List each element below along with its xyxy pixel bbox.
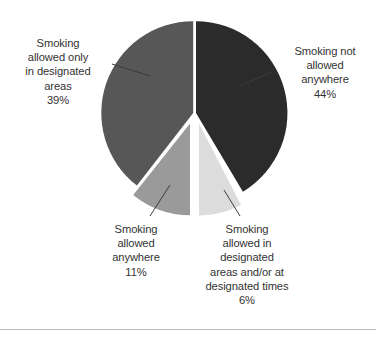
pie-label-smoking-not-allowed-anywhere: Smoking not allowed anywhere 44% [278, 44, 372, 101]
pie-label-line: designated [220, 251, 274, 263]
pie-label-percentage: 44% [278, 87, 372, 101]
pie-label-line: Smoking [115, 223, 158, 235]
pie-label-line: anywhere [112, 251, 160, 263]
pie-label-line: designated times [206, 280, 289, 292]
pie-label-percentage: 39% [6, 93, 110, 107]
pie-label-line: allowed [306, 59, 343, 71]
pie-label-line: in designated [25, 65, 90, 77]
pie-label-line: areas [44, 80, 72, 92]
pie-label-line: Smoking [37, 37, 80, 49]
pie-label-line: Smoking [226, 223, 269, 235]
pie-label-percentage: 11% [84, 265, 188, 279]
pie-label-smoking-allowed-only-in-designated-areas: Smoking allowed only in designated areas… [6, 36, 110, 107]
pie-label-smoking-allowed-in-designated-areas-or-times: Smoking allowed in designated areas and/… [186, 222, 308, 307]
pie-label-line: anywhere [301, 73, 349, 85]
pie-label-line: allowed in [223, 237, 272, 249]
footer-divider [0, 329, 376, 330]
pie-label-line: areas and/or at [210, 266, 284, 278]
pie-chart-figure: Smoking allowed only in designated areas… [0, 0, 376, 338]
pie-label-smoking-allowed-anywhere: Smoking allowed anywhere 11% [84, 222, 188, 279]
pie-label-line: allowed [117, 237, 154, 249]
pie-label-line: allowed only [28, 51, 88, 63]
pie-label-percentage: 6% [186, 293, 308, 307]
pie-label-line: Smoking not [294, 45, 355, 57]
